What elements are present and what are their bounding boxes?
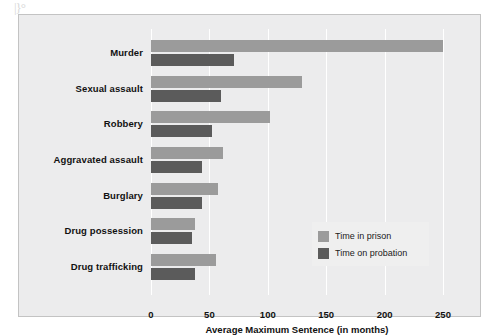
category-label-wrap: Robbery xyxy=(0,110,143,138)
x-axis-title: Average Maximum Sentence (in months) xyxy=(151,324,443,335)
chart-panel: MurderSexual assaultRobberyAggravated as… xyxy=(18,14,481,317)
bar-group: Burglary xyxy=(151,178,443,214)
x-tick-label-200: 200 xyxy=(377,309,393,320)
x-tick-label-150: 150 xyxy=(318,309,334,320)
category-label: Sexual assault xyxy=(0,75,143,103)
bar-probation xyxy=(151,90,221,102)
category-label: Burglary xyxy=(0,182,143,210)
category-label: Drug possession xyxy=(0,217,143,245)
legend-swatch-probation-icon xyxy=(318,248,329,259)
bar-probation xyxy=(151,197,202,209)
x-tick-label-250: 250 xyxy=(435,309,451,320)
category-label: Murder xyxy=(0,39,143,67)
category-label: Aggravated assault xyxy=(0,146,143,174)
category-label: Drug trafficking xyxy=(0,253,143,281)
legend-label-prison: Time in prison xyxy=(335,231,391,241)
category-label-wrap: Burglary xyxy=(0,182,143,210)
bar-probation xyxy=(151,125,212,137)
category-label-wrap: Aggravated assault xyxy=(0,146,143,174)
bar-group: Sexual assault xyxy=(151,71,443,107)
category-label-wrap: Drug possession xyxy=(0,217,143,245)
bar-prison xyxy=(151,76,302,88)
category-label-wrap: Drug trafficking xyxy=(0,253,143,281)
x-tick-label-100: 100 xyxy=(260,309,276,320)
bar-prison xyxy=(151,183,218,195)
x-tick-label-0: 0 xyxy=(148,309,153,320)
legend-item-probation: Time on probation xyxy=(318,245,423,261)
bar-prison xyxy=(151,218,195,230)
bar-probation xyxy=(151,161,202,173)
bar-probation xyxy=(151,54,234,66)
bar-group: Aggravated assault xyxy=(151,142,443,178)
legend-item-prison: Time in prison xyxy=(318,228,423,244)
category-label-wrap: Sexual assault xyxy=(0,75,143,103)
legend-swatch-prison-icon xyxy=(318,231,329,242)
scan-artifact: |}° xyxy=(14,1,40,15)
x-tick-label-50: 50 xyxy=(204,309,215,320)
bar-probation xyxy=(151,232,192,244)
bar-probation xyxy=(151,268,195,280)
bar-prison xyxy=(151,40,443,52)
category-label-wrap: Murder xyxy=(0,39,143,67)
bar-group: Robbery xyxy=(151,106,443,142)
bar-group: Murder xyxy=(151,35,443,71)
gridline-250 xyxy=(443,29,444,295)
bar-prison xyxy=(151,111,270,123)
bar-prison xyxy=(151,147,223,159)
bar-prison xyxy=(151,254,216,266)
legend-label-probation: Time on probation xyxy=(335,248,407,258)
chart-legend: Time in prison Time on probation xyxy=(312,222,429,266)
category-label: Robbery xyxy=(0,110,143,138)
